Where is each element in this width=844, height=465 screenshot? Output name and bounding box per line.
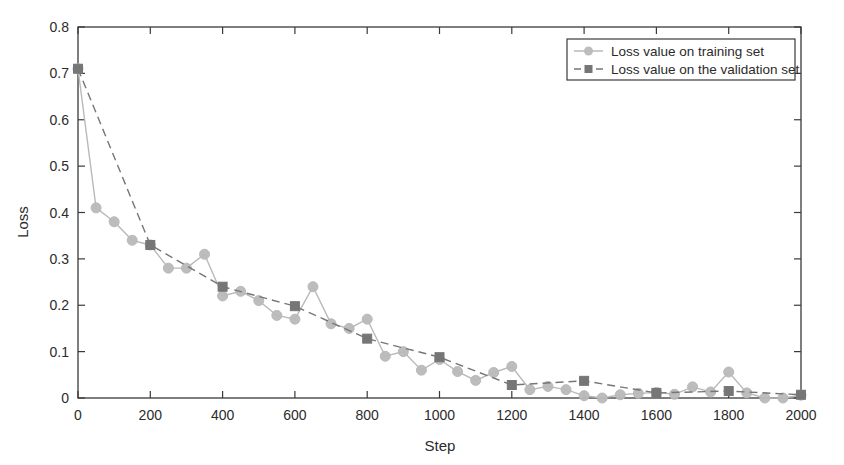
legend-sample-marker [585,65,593,73]
data-point-marker [163,263,173,273]
x-tick-label: 1600 [641,407,672,423]
data-point-marker [218,291,228,301]
data-point-marker [146,240,155,249]
y-tick-label: 0.2 [50,297,70,313]
data-point-marker [91,203,101,213]
data-point-marker [669,389,679,399]
data-point-marker [615,390,625,400]
chart-canvas: 00.10.20.30.40.50.60.70.8 02004006008001… [0,0,844,465]
x-tick-label: 600 [283,407,307,423]
data-point-marker [109,217,119,227]
x-tick-label: 1800 [713,407,744,423]
x-tick-label: 0 [74,407,82,423]
data-point-marker [308,282,318,292]
data-point-marker [579,391,589,401]
x-tick-label: 800 [356,407,380,423]
data-point-marker [507,361,517,371]
y-tick-label: 0.6 [50,112,70,128]
data-point-marker [435,353,444,362]
data-point-marker [127,235,137,245]
loss-curve-figure: 00.10.20.30.40.50.60.70.8 02004006008001… [0,0,844,465]
y-tick-label: 0 [61,390,69,406]
x-tick-label: 400 [211,407,235,423]
chart-legend: Loss value on training setLoss value on … [567,39,800,80]
y-tick-label: 0.7 [50,65,70,81]
data-point-marker [290,314,300,324]
data-point-marker [200,249,210,259]
data-point-marker [507,381,516,390]
data-point-marker [471,375,481,385]
legend-entry-label: Loss value on training set [611,44,764,59]
x-axis-title: Step [425,437,456,454]
data-point-marker [362,314,372,324]
data-point-marker [453,367,463,377]
data-point-marker [561,385,571,395]
data-point-marker [363,334,372,343]
data-point-marker [724,367,734,377]
legend-entry-label: Loss value on the validation set [611,62,800,77]
data-point-marker [742,388,752,398]
data-point-marker [797,390,806,399]
x-tick-label: 2000 [785,407,816,423]
data-point-marker [272,310,282,320]
data-point-marker [652,388,661,397]
data-point-marker [525,385,535,395]
x-tick-label: 200 [139,407,163,423]
y-tick-label: 0.4 [50,205,70,221]
x-tick-label: 1200 [496,407,527,423]
y-axis-title: Loss [14,206,31,238]
data-point-marker [688,382,698,392]
data-point-marker [380,351,390,361]
x-tick-label: 1000 [424,407,455,423]
data-point-marker [724,387,733,396]
data-point-marker [218,282,227,291]
data-point-marker [74,64,83,73]
x-tick-label: 1400 [569,407,600,423]
y-tick-label: 0.8 [50,19,70,35]
y-tick-label: 0.5 [50,158,70,174]
data-point-marker [290,302,299,311]
data-point-marker [416,365,426,375]
data-point-marker [489,367,499,377]
y-tick-label: 0.1 [50,344,70,360]
y-tick-label: 0.3 [50,251,70,267]
data-point-marker [597,393,607,403]
data-point-marker [760,393,770,403]
legend-sample-marker [584,47,593,56]
data-point-marker [580,376,589,385]
